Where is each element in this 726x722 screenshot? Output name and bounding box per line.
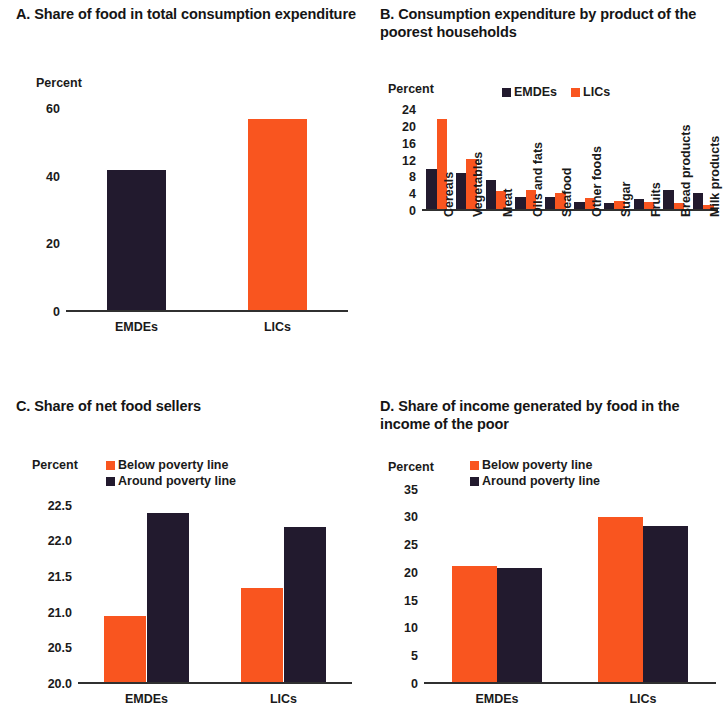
- x-axis-category-label: Meat: [501, 189, 515, 217]
- y-axis-tick-label: 0: [53, 305, 66, 319]
- panel-c-title: C. Share of net food sellers: [16, 398, 356, 416]
- legend-item: Below poverty line: [106, 458, 236, 473]
- y-axis-tick-label: 20: [402, 120, 422, 134]
- panel-a-axis-label: Percent: [36, 76, 82, 90]
- y-axis-tick-label: 12: [402, 154, 422, 168]
- panel-d-baseline: [424, 682, 716, 684]
- bar: [598, 517, 643, 684]
- panel-c-baseline: [78, 682, 352, 684]
- y-axis-tick-label: 20.0: [48, 677, 78, 691]
- x-axis-category-label: Other foods: [590, 146, 604, 217]
- bar: [284, 527, 326, 684]
- panel-a-plot: 0204060: [66, 102, 348, 312]
- bar: [456, 173, 466, 211]
- panel-b: B. Consumption expenditure by product of…: [380, 6, 722, 356]
- legend-swatch-icon: [106, 461, 115, 470]
- legend-swatch-icon: [571, 88, 580, 97]
- panel-b-axis-label: Percent: [388, 82, 434, 96]
- y-axis-tick-label: 21.5: [48, 570, 78, 584]
- bar: [486, 180, 496, 212]
- bar: [643, 526, 688, 684]
- y-axis-tick-label: 30: [404, 510, 424, 524]
- y-axis-tick-label: 20.5: [48, 641, 78, 655]
- legend-label: LICs: [583, 85, 610, 100]
- y-axis-tick-label: 60: [46, 102, 66, 116]
- panel-a-baseline: [66, 310, 348, 312]
- y-axis-tick-label: 21.0: [48, 606, 78, 620]
- panel-c-plot: 20.020.521.021.522.022.5: [78, 488, 352, 684]
- y-axis-tick-label: 24: [402, 103, 422, 117]
- x-axis-category-label: LICs: [629, 692, 656, 706]
- y-axis-tick-label: 15: [404, 594, 424, 608]
- y-axis-tick-label: 5: [411, 649, 424, 663]
- bar: [241, 588, 283, 684]
- x-axis-category-label: Bread products: [679, 125, 693, 217]
- x-axis-category-label: Sugar: [619, 182, 633, 217]
- panel-d-axis-label: Percent: [388, 460, 434, 474]
- y-axis-tick-label: 8: [409, 170, 422, 184]
- x-axis-category-label: EMDEs: [475, 692, 518, 706]
- legend-item: EMDEs: [502, 85, 557, 100]
- y-axis-tick-label: 25: [404, 538, 424, 552]
- y-axis-tick-label: 4: [409, 187, 422, 201]
- y-axis-tick-label: 16: [402, 137, 422, 151]
- x-axis-category-label: LICs: [270, 692, 297, 706]
- panel-b-title: B. Consumption expenditure by product of…: [380, 6, 722, 41]
- panel-a: A. Share of food in total consumption ex…: [16, 6, 356, 356]
- y-axis-tick-label: 20: [46, 237, 66, 251]
- y-axis-tick-label: 20: [404, 566, 424, 580]
- x-axis-category-label: Vegetables: [471, 152, 485, 217]
- panel-d-title: D. Share of income generated by food in …: [380, 398, 722, 433]
- y-axis-tick-label: 10: [404, 621, 424, 635]
- panel-b-legend: EMDEsLICs: [502, 84, 610, 100]
- x-axis-category-label: EMDEs: [125, 692, 168, 706]
- x-axis-category-label: LICs: [264, 320, 291, 334]
- panel-d-plot: 05101520253035: [424, 484, 716, 684]
- bar: [426, 169, 436, 211]
- bar: [248, 119, 307, 312]
- legend-swatch-icon: [470, 461, 479, 470]
- x-axis-category-label: Oils and fats: [531, 142, 545, 217]
- four-panel-bar-chart-figure: A. Share of food in total consumption ex…: [0, 0, 726, 722]
- panel-c: C. Share of net food sellers Percent Bel…: [16, 398, 356, 718]
- x-axis-category-label: Cereals: [442, 172, 456, 217]
- x-axis-category-label: Seafood: [560, 168, 574, 217]
- panel-c-bars: [78, 488, 352, 684]
- legend-item: LICs: [571, 85, 610, 100]
- y-axis-tick-label: 22.0: [48, 534, 78, 548]
- bar: [107, 170, 166, 312]
- x-axis-category-label: Fruits: [649, 182, 663, 217]
- legend-label: Below poverty line: [482, 458, 592, 473]
- y-axis-tick-label: 22.5: [48, 499, 78, 513]
- bar: [452, 566, 497, 684]
- panel-a-title: A. Share of food in total consumption ex…: [16, 6, 356, 24]
- panel-d: D. Share of income generated by food in …: [380, 398, 722, 718]
- legend-label: Below poverty line: [118, 458, 228, 473]
- x-axis-category-label: EMDEs: [115, 320, 158, 334]
- x-axis-category-label: Milk products: [708, 136, 722, 217]
- y-axis-tick-label: 35: [404, 483, 424, 497]
- y-axis-tick-label: 40: [46, 170, 66, 184]
- legend-swatch-icon: [502, 88, 511, 97]
- y-axis-tick-label: 0: [409, 204, 422, 218]
- y-axis-tick-label: 0: [411, 677, 424, 691]
- bar: [663, 190, 673, 211]
- legend-swatch-icon: [106, 477, 115, 486]
- bar: [104, 616, 146, 684]
- panel-c-legend: Below poverty lineAround poverty line: [106, 458, 236, 490]
- panel-c-axis-label: Percent: [32, 458, 78, 472]
- bar: [147, 513, 189, 684]
- bar: [497, 568, 542, 684]
- panel-a-bars: [66, 102, 348, 312]
- legend-item: Below poverty line: [470, 458, 600, 473]
- legend-label: EMDEs: [514, 85, 557, 100]
- panel-d-bars: [424, 484, 716, 684]
